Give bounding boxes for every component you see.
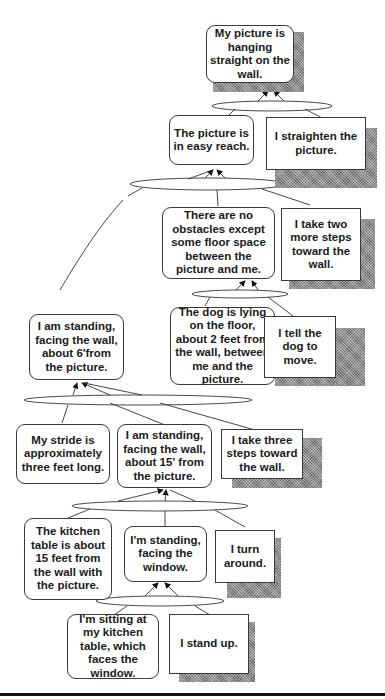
junction-ellipse-standing-6ft xyxy=(24,395,252,405)
node-facing-window-text: I'm standing, facing the window. xyxy=(128,534,203,575)
node-dog-lying: The dog is lying on the floor, about 2 f… xyxy=(170,307,275,385)
node-kitchen-table-text: The kitchen table is about 15 feet from … xyxy=(28,525,108,593)
node-standing-15ft-text: I am standing, facing the wall, about 15… xyxy=(121,429,208,483)
node-turn-around: I turn around. xyxy=(215,530,275,583)
junction-ellipse-facing-window xyxy=(96,596,224,606)
node-straighten-text: I straighten the picture. xyxy=(270,130,362,157)
node-three-steps-text: I take three steps toward the wall. xyxy=(225,434,299,475)
node-standing-6ft: I am standing, facing the wall, about 6′… xyxy=(29,314,124,380)
node-tell-dog: I tell the dog to move. xyxy=(264,316,336,378)
node-kitchen-table: The kitchen table is about 15 feet from … xyxy=(24,518,112,600)
node-no-obstacles: There are no obstacles except some floor… xyxy=(162,207,275,279)
node-facing-window: I'm standing, facing the window. xyxy=(124,526,207,582)
node-goal-text: My picture is hanging straight on the wa… xyxy=(210,27,290,81)
node-turn-around-text: I turn around. xyxy=(219,543,271,570)
node-tell-dog-text: I tell the dog to move. xyxy=(268,327,332,368)
node-dog-lying-text: The dog is lying on the floor, about 2 f… xyxy=(174,306,271,387)
node-stand-up-text: I stand up. xyxy=(180,637,238,651)
junction-ellipse-goal xyxy=(212,101,332,111)
node-stand-up: I stand up. xyxy=(169,614,249,674)
diagram-canvas: My picture is hanging straight on the wa… xyxy=(0,0,385,699)
node-easy-reach: The picture is in easy reach. xyxy=(169,115,254,165)
node-stride-text: My stride is approximately three feet lo… xyxy=(20,434,106,475)
junction-ellipse-easy-reach xyxy=(130,178,286,190)
bottom-rule xyxy=(0,693,385,696)
junction-ellipse-no-obstacles xyxy=(192,290,288,298)
node-straighten: I straighten the picture. xyxy=(266,117,366,170)
node-standing-6ft-text: I am standing, facing the wall, about 6′… xyxy=(33,320,120,374)
node-goal: My picture is hanging straight on the wa… xyxy=(206,25,294,83)
node-easy-reach-text: The picture is in easy reach. xyxy=(173,127,250,154)
node-stride: My stride is approximately three feet lo… xyxy=(16,424,110,484)
junction-ellipse-standing-15ft xyxy=(72,501,248,511)
node-two-steps-text: I take two more steps toward the wall. xyxy=(285,218,357,272)
node-no-obstacles-text: There are no obstacles except some floor… xyxy=(166,209,271,277)
node-standing-15ft: I am standing, facing the wall, about 15… xyxy=(117,424,212,488)
node-three-steps: I take three steps toward the wall. xyxy=(221,429,303,479)
node-sitting: I'm sitting at my kitchen table, which f… xyxy=(67,614,159,679)
node-sitting-text: I'm sitting at my kitchen table, which f… xyxy=(71,613,155,681)
node-two-steps: I take two more steps toward the wall. xyxy=(281,208,361,281)
